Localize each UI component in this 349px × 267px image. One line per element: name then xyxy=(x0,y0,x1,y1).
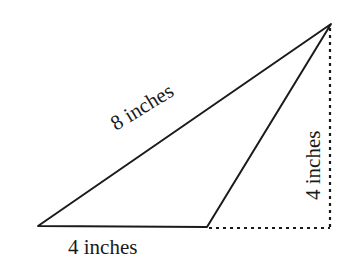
triangle xyxy=(38,24,331,227)
diagram-canvas: 8 inches 4 inches 4 inches xyxy=(0,0,349,267)
triangle-diagram: 8 inches 4 inches 4 inches xyxy=(0,0,349,267)
height-label: 4 inches xyxy=(301,131,325,200)
base-label: 4 inches xyxy=(68,235,137,259)
hypotenuse-label: 8 inches xyxy=(106,79,178,136)
